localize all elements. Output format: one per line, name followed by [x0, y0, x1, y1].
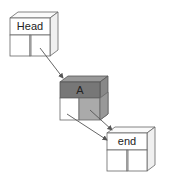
linked-list-diagram: Head A end — [0, 0, 171, 181]
node-end: end — [107, 127, 155, 171]
node-a: A — [60, 76, 108, 120]
node-a-label: A — [76, 84, 84, 96]
node-head-label: Head — [17, 20, 43, 32]
node-end-label: end — [118, 135, 136, 147]
node-head: Head — [10, 12, 58, 56]
